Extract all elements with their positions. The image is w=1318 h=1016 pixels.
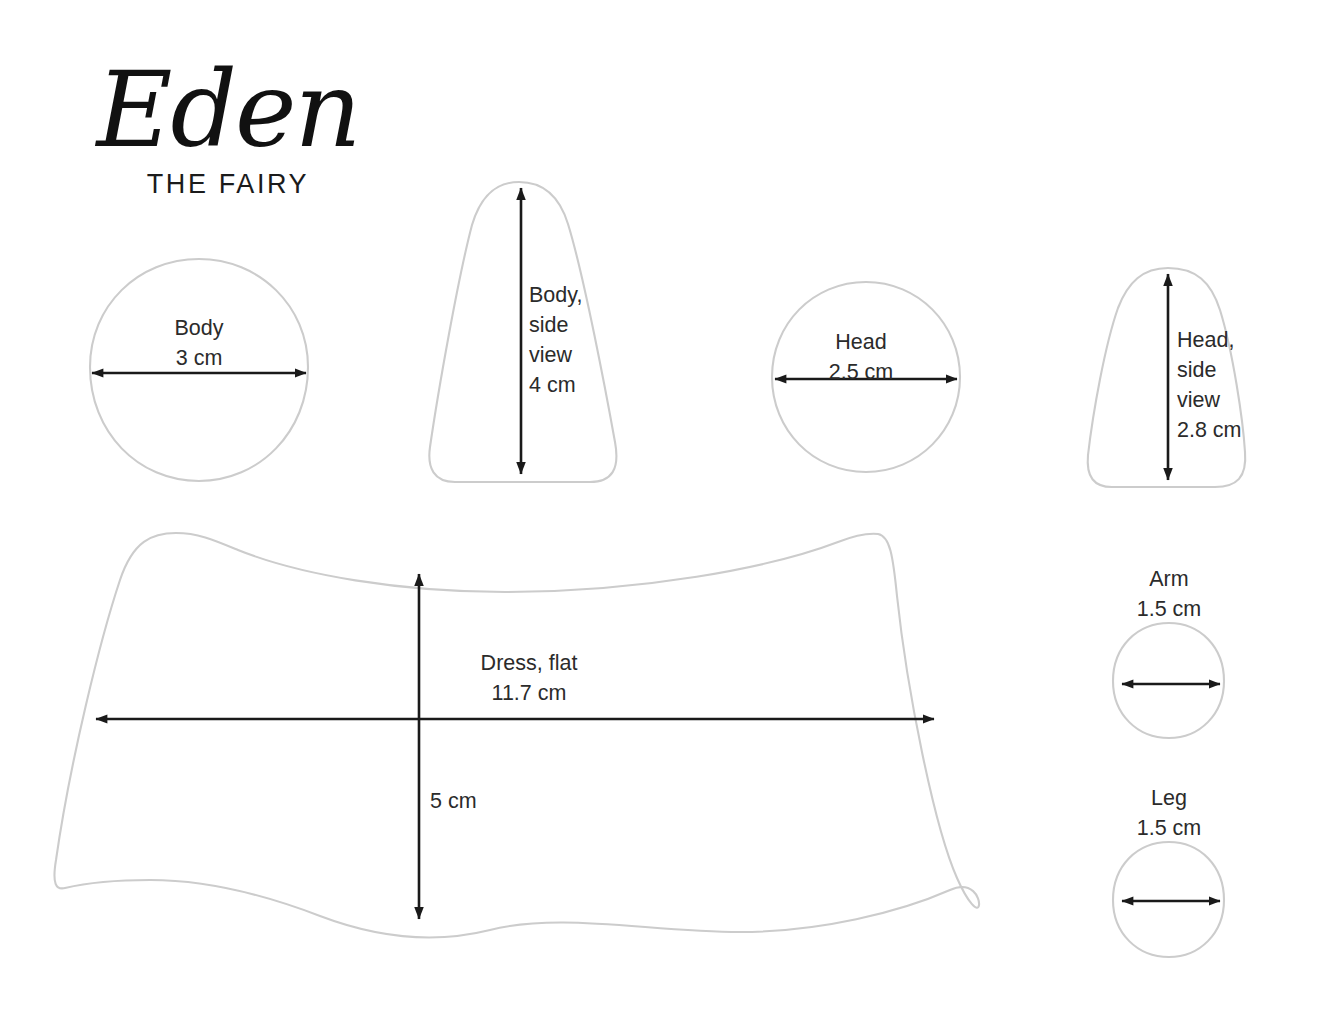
piece-arm-outline — [1113, 623, 1224, 738]
pattern-title-block: Eden THE FAIRY — [78, 55, 378, 200]
piece-dress — [54, 533, 979, 937]
piece-head-outline — [772, 282, 960, 472]
piece-head — [772, 282, 960, 472]
piece-head-side — [1088, 268, 1246, 487]
piece-body-outline — [90, 259, 308, 481]
page-subtitle: THE FAIRY — [78, 169, 378, 200]
page-title: Eden — [78, 55, 378, 165]
piece-body-side-outline — [429, 182, 616, 482]
piece-arm — [1113, 623, 1224, 738]
piece-dress-outline — [54, 533, 979, 937]
piece-head-side-outline — [1088, 268, 1246, 487]
piece-leg — [1113, 842, 1224, 957]
piece-body — [90, 259, 308, 481]
piece-leg-outline — [1113, 842, 1224, 957]
piece-body-side — [429, 182, 616, 482]
pattern-sheet: Eden THE FAIRY Body 3 cm Body, side view… — [0, 0, 1318, 1016]
